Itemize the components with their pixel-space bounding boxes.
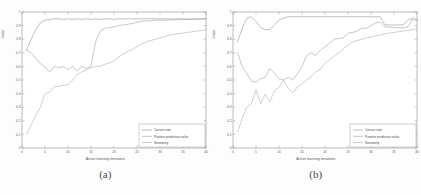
x-axis-tick-label: 5 <box>44 150 46 154</box>
y-axis-tick-label: 0.8 <box>16 37 21 41</box>
chart-svg-a: 051015202530354000.10.20.30.40.50.60.70.… <box>0 0 211 168</box>
x-axis-tick-label: 30 <box>158 150 162 154</box>
x-axis-tick-label: 0 <box>21 150 23 154</box>
x-axis-tick-label: 20 <box>112 150 116 154</box>
x-axis-tick-label: 20 <box>323 150 327 154</box>
x-axis-tick-label: 25 <box>135 150 139 154</box>
plot-area-b: 051015202530354000.10.20.30.40.50.60.70.… <box>211 0 421 168</box>
y-axis-tick-label: 0.1 <box>226 133 231 137</box>
x-axis-tick-label: 35 <box>392 150 396 154</box>
x-axis-tick-label: 30 <box>369 150 373 154</box>
y-axis-tick-label: 0.5 <box>226 78 231 82</box>
y-axis-tick-label: 0.5 <box>16 78 21 82</box>
y-axis-tick-label: 0.4 <box>16 92 21 96</box>
chart-panel-a: 051015202530354000.10.20.30.40.50.60.70.… <box>0 0 211 195</box>
y-axis-tick-label: 0.8 <box>226 37 231 41</box>
y-axis-tick-label: 0.2 <box>226 119 231 123</box>
x-axis-tick-label: 25 <box>346 150 350 154</box>
x-axis-tick-label: 10 <box>66 150 70 154</box>
y-axis-tick-label: 0.1 <box>16 133 21 137</box>
legend-label: Sensitivity <box>365 141 380 145</box>
y-axis-label-b: Value <box>212 12 216 56</box>
y-axis-tick-label: 0.9 <box>16 24 21 28</box>
x-axis-tick-label: 15 <box>300 150 304 154</box>
x-axis-tick-label: 35 <box>181 150 185 154</box>
x-axis-label-b: Active learning iterations <box>211 157 421 161</box>
y-axis-tick-label: 0.7 <box>226 51 231 55</box>
panel-caption-b: (b) <box>211 168 421 180</box>
y-axis-tick-label: 0.7 <box>16 51 21 55</box>
plot-area-a: 051015202530354000.10.20.30.40.50.60.70.… <box>0 0 211 168</box>
x-axis-tick-label: 40 <box>415 150 419 154</box>
y-axis-tick-label: 1 <box>229 10 231 14</box>
chart-svg-b: 051015202530354000.10.20.30.40.50.60.70.… <box>211 0 421 168</box>
legend-label: Sensitivity <box>154 141 169 145</box>
y-axis-tick-label: 0.2 <box>16 119 21 123</box>
x-axis-label-a: Active learning iterations <box>0 157 211 161</box>
x-axis-tick-label: 15 <box>89 150 93 154</box>
y-axis-tick-label: 0 <box>19 146 21 150</box>
y-axis-tick-label: 0.6 <box>16 65 21 69</box>
legend-label: Correct rate <box>365 128 382 132</box>
x-axis-tick-label: 0 <box>232 150 234 154</box>
y-axis-tick-label: 1 <box>19 10 21 14</box>
chart-panel-b: 051015202530354000.10.20.30.40.50.60.70.… <box>211 0 421 195</box>
legend-label: Positive predictive value <box>154 135 188 139</box>
y-axis-tick-label: 0.6 <box>226 65 231 69</box>
x-axis-tick-label: 40 <box>204 150 208 154</box>
y-axis-tick-label: 0.3 <box>226 105 231 109</box>
legend-label: Positive predictive value <box>365 135 399 139</box>
y-axis-tick-label: 0.3 <box>16 105 21 109</box>
y-axis-tick-label: 0.9 <box>226 24 231 28</box>
y-axis-tick-label: 0.4 <box>226 92 231 96</box>
x-axis-tick-label: 10 <box>277 150 281 154</box>
x-axis-tick-label: 5 <box>255 150 257 154</box>
legend-label: Correct rate <box>154 128 171 132</box>
panel-caption-a: (a) <box>0 168 211 180</box>
y-axis-label-a: Value <box>1 12 5 56</box>
y-axis-tick-label: 0 <box>229 146 231 150</box>
figure-container: 051015202530354000.10.20.30.40.50.60.70.… <box>0 0 421 195</box>
